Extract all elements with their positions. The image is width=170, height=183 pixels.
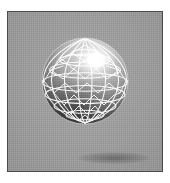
figure-panel — [7, 11, 163, 172]
sphere-contact-shadow — [78, 152, 150, 164]
sphere-stage — [38, 26, 132, 144]
specular-highlight — [75, 42, 117, 78]
geodesic-sphere — [38, 26, 132, 144]
figure-page — [0, 0, 170, 183]
